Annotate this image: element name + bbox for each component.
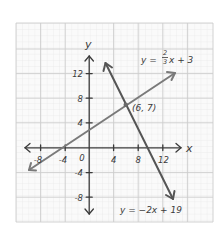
svg-text:y =: y =	[140, 55, 157, 65]
intersection-label: (6, 7)	[132, 103, 156, 113]
x-axis-label: x	[185, 142, 193, 155]
svg-text:4: 4	[78, 118, 83, 128]
svg-text:12: 12	[72, 69, 83, 79]
grid	[16, 23, 213, 222]
svg-text:-4: -4	[75, 168, 83, 178]
y-axis-label: y	[84, 38, 92, 51]
svg-text:8: 8	[135, 155, 141, 165]
coordinate-plane: y x 12 8 4 -4 -8 -8 -4 0 4 8 12 (6, 7) y…	[0, 0, 219, 235]
svg-text:3: 3	[163, 58, 167, 66]
svg-text:8: 8	[78, 94, 84, 104]
svg-text:2: 2	[163, 49, 167, 57]
svg-text:4: 4	[111, 155, 116, 165]
svg-text:-8: -8	[34, 155, 43, 165]
svg-text:-8: -8	[75, 193, 84, 203]
equation-2-label: y = −2x + 19	[119, 205, 182, 215]
svg-text:12: 12	[158, 155, 169, 165]
svg-text:-4: -4	[59, 155, 67, 165]
svg-text:0: 0	[79, 153, 84, 163]
intersection-point	[124, 103, 128, 107]
svg-text:x + 3: x + 3	[168, 55, 194, 65]
